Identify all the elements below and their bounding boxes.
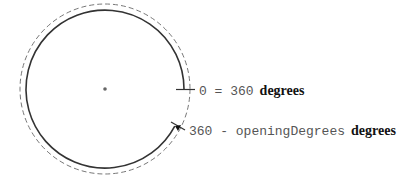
center-dot xyxy=(103,87,107,91)
end-label-code: 360 - openingDegrees xyxy=(189,124,345,139)
start-label-code: 0 = 360 xyxy=(199,84,254,99)
start-label: 0 = 360degrees xyxy=(199,83,305,99)
end-label-unit: degrees xyxy=(351,123,396,138)
start-label-unit: degrees xyxy=(260,83,305,98)
end-label: 360 - openingDegreesdegrees xyxy=(189,123,396,139)
opening-degrees-diagram: 0 = 360degrees 360 - openingDegreesdegre… xyxy=(0,0,404,180)
